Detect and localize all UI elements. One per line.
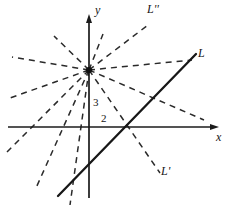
axes-group bbox=[8, 14, 219, 198]
line-label-L-double-prime: L'' bbox=[147, 3, 159, 15]
x-axis-label: x bbox=[216, 131, 221, 143]
pencil-ray-6 bbox=[89, 60, 192, 70]
tick-label-3: 3 bbox=[93, 97, 99, 108]
figure-canvas: y x 3 2 L L' L'' bbox=[0, 0, 232, 213]
pencil-ray-4 bbox=[89, 34, 103, 70]
line-L bbox=[58, 54, 196, 196]
pencil-ray-3 bbox=[54, 36, 89, 70]
geometry-diagram bbox=[0, 0, 232, 213]
pencil-ray-11 bbox=[7, 70, 89, 152]
tick-label-2: 2 bbox=[101, 113, 107, 124]
pencil-ray-1 bbox=[7, 70, 89, 99]
pencil-point-marker bbox=[86, 67, 92, 73]
line-label-L-prime: L' bbox=[161, 165, 170, 177]
line-label-L: L bbox=[198, 47, 205, 59]
y-axis-arrow-icon bbox=[86, 14, 92, 23]
y-axis-label: y bbox=[95, 4, 100, 16]
